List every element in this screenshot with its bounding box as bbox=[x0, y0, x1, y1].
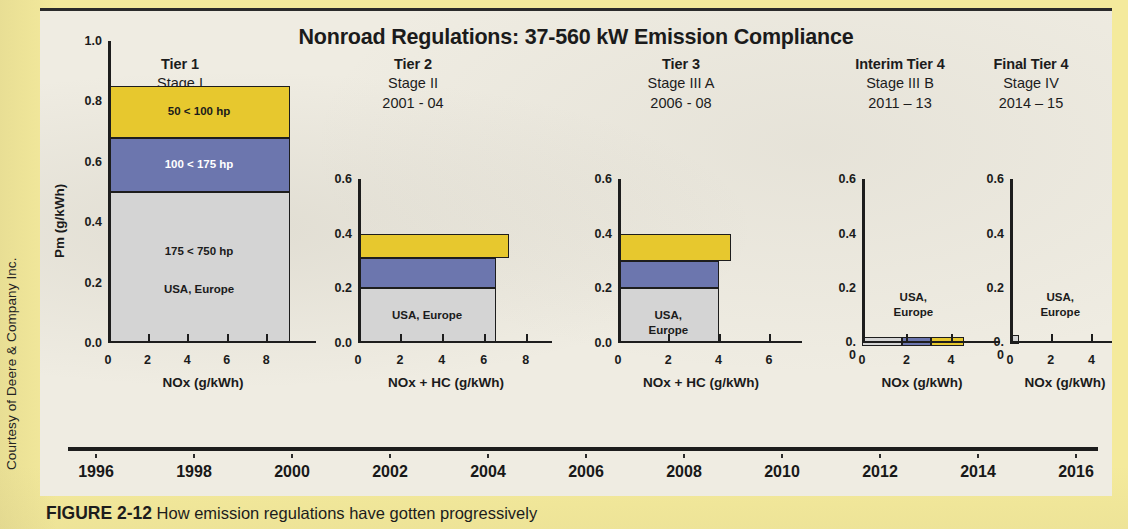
chart-tier2: USA, Europe024680.00.20.40.6NOx + HC (g/… bbox=[358, 179, 534, 343]
tier-stage: Stage II bbox=[338, 74, 488, 93]
x-tick-label: 4 bbox=[438, 353, 445, 367]
timeline-label: 2016 bbox=[1058, 463, 1094, 481]
y-axis-line bbox=[618, 179, 621, 343]
x-tick bbox=[1051, 334, 1053, 343]
x-tick bbox=[266, 334, 268, 343]
tier-years: 2014 – 15 bbox=[966, 94, 1096, 113]
y-tick-label: 0.6 bbox=[72, 155, 102, 169]
x-tick bbox=[484, 334, 486, 343]
x-tick-label: 0 bbox=[105, 353, 112, 367]
timeline-label: 2002 bbox=[372, 463, 408, 481]
timeline-label: 1996 bbox=[78, 463, 114, 481]
y-tick-label: 0.2 bbox=[828, 281, 856, 295]
y-tick-label: 0.4 bbox=[72, 215, 102, 229]
plot-area: 175 < 750 hpUSA, Europe100 < 175 hp50 < … bbox=[108, 41, 298, 343]
band-2 bbox=[108, 138, 290, 192]
timeline-label: 2012 bbox=[862, 463, 898, 481]
timeline-label: 2008 bbox=[666, 463, 702, 481]
x-tick bbox=[906, 334, 908, 343]
caption-text: How emission regulations have gotten pro… bbox=[152, 504, 537, 522]
x-tick-label: 0 bbox=[615, 353, 622, 367]
y-tick-label: 0. 0 bbox=[828, 336, 856, 361]
timeline-label: 2004 bbox=[470, 463, 506, 481]
tier-header-4: Interim Tier 4Stage III B2011 – 13 bbox=[825, 55, 975, 113]
x-tick-label: 0 bbox=[355, 353, 362, 367]
y-axis-line bbox=[108, 41, 111, 343]
band-1 bbox=[358, 288, 496, 343]
timeline-label: 1998 bbox=[176, 463, 212, 481]
x-tick-label: 0 bbox=[1007, 353, 1014, 367]
y-axis-line bbox=[862, 179, 865, 343]
tier-name: Final Tier 4 bbox=[966, 55, 1096, 74]
chart-tier3: USA, Europe02460.00.20.40.6NOx + HC (g/k… bbox=[618, 179, 784, 343]
timeline-tick bbox=[977, 454, 979, 458]
tier-name: Tier 3 bbox=[601, 55, 761, 74]
y-tick-label: 0.2 bbox=[582, 281, 612, 295]
y-tick-label: 0.6 bbox=[322, 172, 352, 186]
chart-interim-tier4: USA, Europe0240. 00.20.40.6NOx (g/kWh) bbox=[862, 179, 982, 343]
timeline-tick bbox=[879, 454, 881, 458]
band-2 bbox=[618, 261, 719, 288]
y-tick-label: 0.2 bbox=[72, 276, 102, 290]
x-tick bbox=[400, 334, 402, 343]
x-tick-label: 6 bbox=[480, 353, 487, 367]
timeline-label: 2010 bbox=[764, 463, 800, 481]
x-tick bbox=[187, 334, 189, 343]
tier-years: 2011 – 13 bbox=[825, 94, 975, 113]
band-1 bbox=[108, 192, 290, 343]
y-tick-label: 0.4 bbox=[582, 227, 612, 241]
timeline-tick bbox=[95, 454, 97, 458]
y-tick-label: 0.4 bbox=[976, 227, 1004, 241]
tier-name: Tier 2 bbox=[338, 55, 488, 74]
timeline-tick bbox=[389, 454, 391, 458]
courtesy-credit: Courtesy of Deere & Company Inc. bbox=[4, 170, 19, 470]
y-tick-label: 0.6 bbox=[582, 172, 612, 186]
x-axis-title: NOx + HC (g/kWh) bbox=[588, 375, 814, 390]
tier-header-5: Final Tier 4Stage IV2014 – 15 bbox=[966, 55, 1096, 113]
x-tick bbox=[951, 334, 953, 343]
tier-stage: Stage IV bbox=[966, 74, 1096, 93]
tier-years: 2006 - 08 bbox=[601, 94, 761, 113]
x-tick-label: 2 bbox=[144, 353, 151, 367]
plot-area: USA, Europe0240. 00.20.40.6NOx (g/kWh) bbox=[862, 179, 982, 343]
x-tick-label: 6 bbox=[223, 353, 230, 367]
band-3 bbox=[618, 234, 731, 261]
y-axis-line bbox=[1010, 179, 1013, 343]
timeline-tick bbox=[781, 454, 783, 458]
x-tick-label: 4 bbox=[715, 353, 722, 367]
y-tick-label: 0.0 bbox=[582, 336, 612, 350]
x-axis-title: NOx (g/kWh) bbox=[78, 375, 328, 390]
x-tick-label: 4 bbox=[184, 353, 191, 367]
plot-area: USA, Europe024680.00.20.40.6NOx + HC (g/… bbox=[358, 179, 534, 343]
x-tick bbox=[1091, 334, 1093, 343]
band-2 bbox=[358, 258, 496, 288]
x-tick-label: 2 bbox=[665, 353, 672, 367]
x-tick bbox=[668, 334, 670, 343]
x-tick-label: 8 bbox=[263, 353, 270, 367]
x-tick-label: 4 bbox=[1088, 353, 1095, 367]
y-tick-label: 0.2 bbox=[322, 281, 352, 295]
figure-caption: FIGURE 2-12 How emission regulations hav… bbox=[46, 503, 1104, 529]
y-axis-line bbox=[358, 179, 361, 343]
y-tick-label: 0.8 bbox=[72, 94, 102, 108]
x-axis-line bbox=[1010, 341, 1112, 344]
y-tick-label: 0.0 bbox=[72, 336, 102, 350]
timeline-label: 2006 bbox=[568, 463, 604, 481]
y-tick-label: 0.6 bbox=[976, 172, 1004, 186]
plot-area: USA, Europe0240. 00.20.40.6NOx (g/kWh) bbox=[1010, 179, 1112, 343]
plot-area: USA, Europe02460.00.20.40.6NOx + HC (g/k… bbox=[618, 179, 784, 343]
timeline-rule bbox=[68, 447, 1098, 451]
band-3 bbox=[358, 234, 509, 259]
timeline-label: 2000 bbox=[274, 463, 310, 481]
x-tick bbox=[719, 334, 721, 343]
y-tick-label: 0.4 bbox=[828, 227, 856, 241]
tier-name: Interim Tier 4 bbox=[825, 55, 975, 74]
x-tick bbox=[769, 334, 771, 343]
x-axis-title: NOx (g/kWh) bbox=[980, 375, 1112, 390]
x-tick-label: 2 bbox=[903, 353, 910, 367]
x-tick-label: 2 bbox=[1047, 353, 1054, 367]
y-tick-label: 0.2 bbox=[976, 281, 1004, 295]
y-tick-label: 0.6 bbox=[828, 172, 856, 186]
y-tick-label: 0.4 bbox=[322, 227, 352, 241]
x-axis-line bbox=[358, 341, 552, 344]
